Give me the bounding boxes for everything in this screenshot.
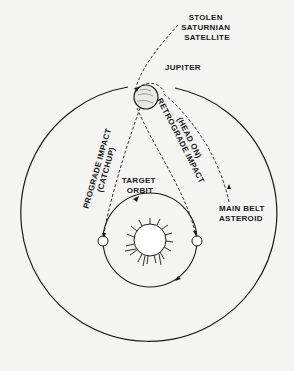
label-main-belt: MAIN BELT ASTEROID: [219, 204, 267, 223]
planet-right: [192, 236, 202, 246]
sun-icon: [125, 218, 173, 266]
label-jupiter: JUPITER: [165, 63, 201, 72]
orbital-diagram: STOLEN SATURNIAN SATELLITE JUPITER PROGR…: [0, 0, 294, 371]
planet-left: [98, 236, 108, 246]
orbit-arrow-icon: [133, 196, 139, 202]
label-stolen-satellite: STOLEN SATURNIAN SATELLITE: [181, 13, 233, 42]
label-prograde: PROGRADE IMPACT (CATCHUP): [81, 125, 122, 212]
label-retrograde: RETROGRADE IMPACT (HEAD ON): [155, 93, 215, 187]
arrow-icon: [227, 184, 231, 189]
satellite-path: [136, 25, 178, 87]
label-target-orbit: TARGET ORBIT: [122, 176, 159, 195]
